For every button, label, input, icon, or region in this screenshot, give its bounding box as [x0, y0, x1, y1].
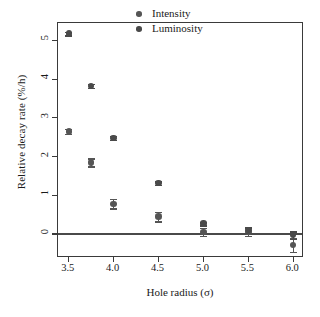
y-axis-tick [52, 233, 58, 234]
data-point [86, 81, 96, 91]
legend-marker-icon [136, 11, 142, 17]
plot-area [58, 23, 302, 256]
plot-frame [57, 22, 303, 257]
error-bar-cap [155, 221, 162, 222]
marker-luminosity [290, 232, 296, 238]
y-axis-tick-label: 3 [39, 95, 50, 135]
marker-intensity [155, 213, 161, 219]
data-point [109, 133, 119, 143]
data-point [288, 230, 298, 240]
marker-intensity [290, 242, 296, 248]
x-axis-tick-label: 6.0 [272, 262, 312, 273]
error-bar-cap [245, 236, 252, 237]
data-point [198, 219, 208, 229]
y-axis-tick-label: 1 [39, 173, 50, 213]
y-axis-tick-label: 2 [39, 134, 50, 174]
y-axis-tick [52, 117, 58, 118]
data-point [154, 178, 164, 188]
figure: Relative decay rate (%/h) Hole radius (σ… [0, 0, 320, 317]
legend-label: Intensity [152, 6, 191, 21]
x-axis-tick-label: 5.0 [182, 262, 222, 273]
y-axis-tick-label: 5 [39, 18, 50, 58]
y-axis-tick [52, 156, 58, 157]
legend-marker-icon [136, 26, 142, 32]
error-bar-cap [88, 166, 95, 167]
y-axis-tick [52, 79, 58, 80]
y-axis-tick [52, 195, 58, 196]
legend-label: Luminosity [152, 21, 203, 36]
x-axis-tick-label: 5.5 [227, 262, 267, 273]
data-point [288, 240, 298, 250]
y-axis-tick-label: 0 [39, 211, 50, 251]
marker-intensity [200, 229, 206, 235]
zero-reference-line [58, 233, 302, 235]
x-axis-title: Hole radius (σ) [57, 286, 303, 298]
error-bar-cap [290, 252, 297, 253]
marker-intensity [88, 159, 94, 165]
data-point [154, 212, 164, 222]
x-axis-tick-label: 4.5 [138, 262, 178, 273]
x-axis-tick-label: 3.5 [48, 262, 88, 273]
error-bar-cap [110, 208, 117, 209]
data-point [86, 157, 96, 167]
y-axis-title: Relative decay rate (%/h) [15, 32, 27, 232]
data-point [109, 199, 119, 209]
x-axis-tick-label: 4.0 [93, 262, 133, 273]
error-bar-cap [200, 236, 207, 237]
error-bar-cap [290, 239, 297, 240]
data-point [198, 227, 208, 237]
y-axis-tick-label: 4 [39, 57, 50, 97]
marker-intensity [110, 201, 116, 207]
data-point [64, 126, 74, 136]
y-axis-tick [52, 40, 58, 41]
data-point [64, 28, 74, 38]
data-point [243, 225, 253, 235]
